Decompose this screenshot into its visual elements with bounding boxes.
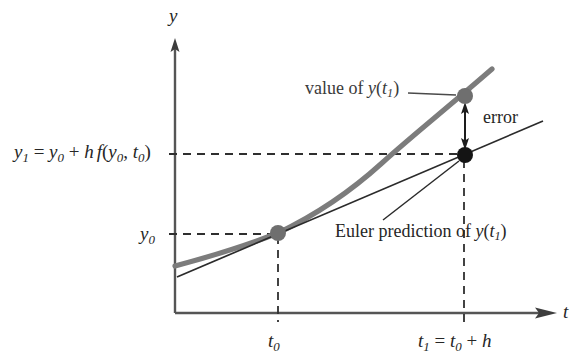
y1-term1-symbol: y [49, 141, 57, 162]
y1-f-symbol: f [94, 141, 102, 162]
y1-close-paren: ) [144, 141, 150, 162]
t0-subscript: 0 [273, 339, 279, 354]
y-axis-label: y [169, 6, 177, 25]
y1-equation-label: y1 = y0 + hf(y0, t0) [14, 142, 151, 165]
euler-tangent-line [177, 121, 543, 277]
y1-h-symbol: h [84, 141, 94, 162]
value-of-annotation: value of y(t1) [305, 79, 399, 100]
value-of-prefix: value of [305, 78, 368, 98]
y1-equals: = [29, 141, 49, 162]
t1-h-symbol: h [482, 330, 492, 351]
y0-subscript: 0 [148, 232, 154, 247]
t-axis-label: t [563, 302, 568, 321]
t0-axis-label: t0 [268, 331, 280, 354]
y1-plus: + [64, 141, 84, 162]
euler-leader-line [383, 161, 459, 220]
y1-comma: , [123, 141, 133, 162]
euler-close-paren: ) [501, 221, 507, 241]
euler-method-figure: y t y1 = y0 + hf(y0, t0) y0 t0 t1 = t0 +… [0, 0, 583, 364]
t1-plus: + [462, 330, 482, 351]
y1-arg1-symbol: y [108, 141, 116, 162]
point-y0 [270, 225, 286, 241]
error-annotation: error [483, 108, 518, 126]
value-of-y-symbol: y [368, 78, 376, 98]
point-true-y-t1 [457, 88, 473, 104]
value-of-leader-line [408, 93, 456, 95]
t1-equation-label: t1 = t0 + h [418, 331, 491, 354]
euler-prefix: Euler prediction of [335, 221, 475, 241]
diagram-canvas [0, 0, 583, 364]
error-double-arrow [461, 102, 469, 150]
value-of-close-paren: ) [393, 78, 399, 98]
y0-axis-label: y0 [140, 224, 155, 247]
euler-prediction-annotation: Euler prediction of y(t1) [335, 222, 507, 243]
t1-equals: = [430, 330, 450, 351]
point-euler-y1 [457, 147, 473, 163]
